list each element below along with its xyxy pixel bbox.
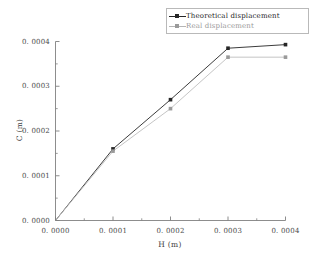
axis-lines: [56, 42, 286, 221]
chart-legend: Theoretical displacement Real displaceme…: [166, 8, 309, 34]
y-tick-label: 0. 0004: [16, 38, 50, 46]
chart-figure: 0. 00000. 00010. 00020. 00030. 0004 0. 0…: [0, 0, 315, 262]
x-tick-label: 0. 0004: [271, 227, 299, 235]
x-axis-title: H (m): [158, 240, 181, 249]
x-tick-label: 0. 0002: [156, 227, 184, 235]
legend-marker-real-icon: [169, 22, 186, 31]
legend-item-real: Real displacement: [169, 21, 305, 31]
legend-label-real: Real displacement: [186, 22, 254, 31]
y-axis-title: C (m): [15, 119, 24, 142]
x-tick-label: 0. 0000: [41, 227, 69, 235]
data-series: [56, 43, 288, 221]
x-tick-label: 0. 0003: [214, 227, 242, 235]
y-tick-label: 0. 0001: [16, 172, 50, 180]
y-tick-label: 0. 0000: [16, 217, 50, 225]
legend-label-theoretical: Theoretical displacement: [186, 12, 280, 21]
legend-marker-theoretical-icon: [169, 12, 186, 21]
x-tick-label: 0. 0001: [99, 227, 127, 235]
y-tick-label: 0. 0003: [16, 82, 50, 90]
axis-ticks: [56, 42, 286, 221]
legend-item-theoretical: Theoretical displacement: [169, 11, 305, 21]
